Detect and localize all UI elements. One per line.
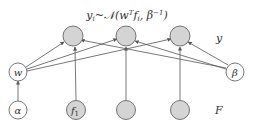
equation-label: yi~𝒩(wTfi, β−1) [85,9,167,23]
F-layer-label: F [214,104,223,117]
y-layer-label: y [215,32,223,45]
node-f2 [117,101,136,120]
edge-f1-y1 [75,47,76,100]
node-w-label: w [14,67,23,78]
node-beta-label: β [231,67,238,78]
node-y1 [63,26,83,46]
node-y2 [116,26,136,46]
node-y3 [170,26,190,46]
edges [18,39,228,101]
diagram-canvas: yi~𝒩(wTfi, β−1) y w β α f1 F [0,0,255,130]
node-alpha-label: α [15,105,22,116]
graphical-model-diagram: yi~𝒩(wTfi, β−1) y w β α f1 F [0,0,255,130]
node-f3 [171,101,190,120]
